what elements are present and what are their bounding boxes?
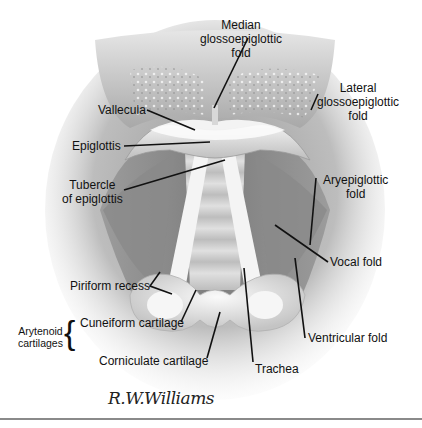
label-arytenoid-cartilages: Arytenoid cartilages [18, 325, 63, 349]
label-line: Median [200, 18, 282, 32]
larynx-illustration [0, 0, 422, 428]
label-line: Tubercle [62, 178, 123, 192]
label-ventricular-fold: Ventricular fold [308, 331, 387, 345]
label-epiglottis: Epiglottis [72, 139, 121, 153]
label-cuneiform-cartilage: Cuneiform cartilage [80, 316, 184, 330]
label-aryepiglottic-fold: Aryepiglottic fold [323, 173, 388, 201]
label-lateral-glossoepiglottic-fold: Lateral glossoepiglottic fold [317, 81, 399, 123]
artist-signature: R.W.Williams [108, 388, 214, 408]
label-line: fold [317, 109, 399, 123]
label-vocal-fold: Vocal fold [330, 255, 382, 269]
label-line: Arytenoid [18, 325, 63, 337]
label-trachea: Trachea [255, 362, 299, 376]
label-line: fold [200, 46, 282, 60]
label-corniculate-cartilage: Corniculate cartilage [99, 354, 208, 368]
label-line: glossoepiglottic [200, 32, 282, 46]
label-piriform-recess: Piriform recess [70, 279, 150, 293]
label-line: cartilages [18, 337, 63, 349]
brace-icon: { [64, 315, 75, 349]
label-line: of epiglottis [62, 192, 123, 206]
bottom-divider [0, 418, 422, 420]
label-line: glossoepiglottic [317, 95, 399, 109]
label-line: Aryepiglottic [323, 173, 388, 187]
label-median-glossoepiglottic-fold: Median glossoepiglottic fold [200, 18, 282, 60]
label-tubercle-of-epiglottis: Tubercle of epiglottis [62, 178, 123, 206]
label-vallecula: Vallecula [98, 103, 146, 117]
label-line: fold [323, 187, 388, 201]
label-line: Lateral [317, 81, 399, 95]
